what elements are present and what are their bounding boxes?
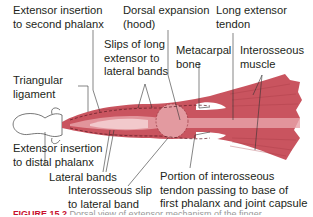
label-line: Extensor insertion — [13, 4, 104, 18]
label-interosseous-slip: Interosseous slip to lateral band — [68, 184, 152, 211]
label-line: Long extensor — [216, 4, 287, 18]
label-long-extensor-tendon: Long extensor tendon — [216, 4, 287, 31]
label-line: bone — [176, 58, 231, 72]
label-triangular-ligament: Triangular ligament — [13, 74, 63, 101]
label-line: to distal phalanx — [13, 156, 103, 170]
label-slips-long-extensor: Slips of long extensor to lateral bands — [104, 38, 168, 79]
figure-label: FIGURE 15.2 — [13, 209, 67, 215]
metacarpal-head — [156, 104, 188, 138]
label-interosseous-tendon-portion: Portion of interosseous tendon passing t… — [160, 170, 307, 211]
label-line: (hood) — [123, 18, 209, 32]
label-metacarpal-bone: Metacarpal bone — [176, 44, 231, 71]
label-line: Triangular — [13, 74, 63, 88]
label-interosseous-muscle: Interosseous muscle — [240, 44, 304, 71]
label-line: ligament — [13, 88, 63, 102]
label-line: tendon passing to base of — [160, 184, 307, 198]
label-line: lateral bands — [104, 65, 168, 79]
label-line: Extensor insertion — [13, 142, 103, 156]
label-line: Dorsal expansion — [123, 4, 209, 18]
label-line: to second phalanx — [13, 18, 104, 32]
label-line: extensor to — [104, 52, 168, 66]
label-line: muscle — [240, 58, 304, 72]
label-lateral-bands: Lateral bands — [49, 171, 117, 185]
figure-caption: FIGURE 15.2 Dorsal view of extensor mech… — [13, 209, 262, 215]
label-extensor-insertion-distal-phalanx: Extensor insertion to distal phalanx — [13, 142, 103, 169]
label-line: Slips of long — [104, 38, 168, 52]
fingertip-outline — [13, 114, 62, 137]
label-line: tendon — [216, 18, 287, 32]
label-line: Metacarpal — [176, 44, 231, 58]
caption-text: Dorsal view of extensor mechanism of the… — [70, 209, 262, 215]
label-line: Interosseous slip — [68, 184, 152, 198]
label-line: Interosseous — [240, 44, 304, 58]
label-line: Portion of interosseous — [160, 170, 307, 184]
label-line: Lateral bands — [49, 171, 117, 185]
label-dorsal-expansion: Dorsal expansion (hood) — [123, 4, 209, 31]
label-extensor-insertion-second-phalanx: Extensor insertion to second phalanx — [13, 4, 104, 31]
